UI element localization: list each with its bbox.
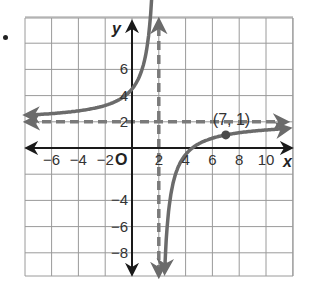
- x-tick-label: −2: [97, 151, 114, 168]
- y-tick-label: −8: [111, 244, 128, 261]
- y-axis-label: y: [111, 20, 122, 37]
- x-tick-label: 8: [235, 151, 243, 168]
- y-tick-label: 6: [120, 60, 128, 77]
- point-7-1: [221, 130, 230, 139]
- y-tick-label: −4: [111, 191, 128, 208]
- origin-label: O: [115, 151, 127, 168]
- point-label: (7, 1): [213, 111, 250, 128]
- y-tick-label: −6: [111, 218, 128, 235]
- x-tick-label: 10: [258, 151, 275, 168]
- x-tick-label: 2: [155, 151, 163, 168]
- x-tick-label: 6: [208, 151, 216, 168]
- x-tick-label: −4: [70, 151, 87, 168]
- x-tick-label: −6: [43, 151, 60, 168]
- x-axis-label: x: [282, 153, 293, 170]
- y-tick-label: 4: [120, 87, 128, 104]
- y-tick-label: 2: [120, 113, 128, 130]
- x-tick-label: 4: [181, 151, 189, 168]
- curve-right-branch: [165, 129, 288, 271]
- rational-function-graph: −6−4−2246810642−4−6−8 (7, 1) x y O: [0, 0, 311, 281]
